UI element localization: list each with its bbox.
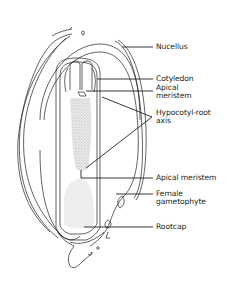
label-apical-meristem-root-text: Apical meristem (156, 173, 216, 182)
embryo-base (58, 232, 104, 268)
seed-section-drawing (0, 0, 239, 285)
label-apical-meristem-shoot: Apical meristem (156, 84, 192, 100)
label-hypocotyl-root-axis: Hypocotyl-root axis (156, 109, 211, 125)
label-nucellus-text: Nucellus (156, 42, 188, 51)
seed-diagram: Nucellus Cotyledon Apical meristem Hypoc… (0, 0, 239, 285)
label-rootcap: Rootcap (156, 223, 186, 231)
label-apical-meristem-root: Apical meristem (156, 174, 216, 182)
label-apical-meristem-shoot-line2: meristem (156, 92, 192, 100)
label-cotyledon: Cotyledon (156, 75, 194, 83)
label-nucellus: Nucellus (156, 43, 188, 51)
label-hypocotyl-line2: axis (156, 117, 211, 125)
label-female-gametophyte: Female gametophyte (156, 190, 206, 206)
label-female-line2: gametophyte (156, 198, 206, 206)
embryo (56, 58, 100, 240)
label-rootcap-text: Rootcap (156, 222, 186, 231)
label-cotyledon-text: Cotyledon (156, 74, 194, 83)
